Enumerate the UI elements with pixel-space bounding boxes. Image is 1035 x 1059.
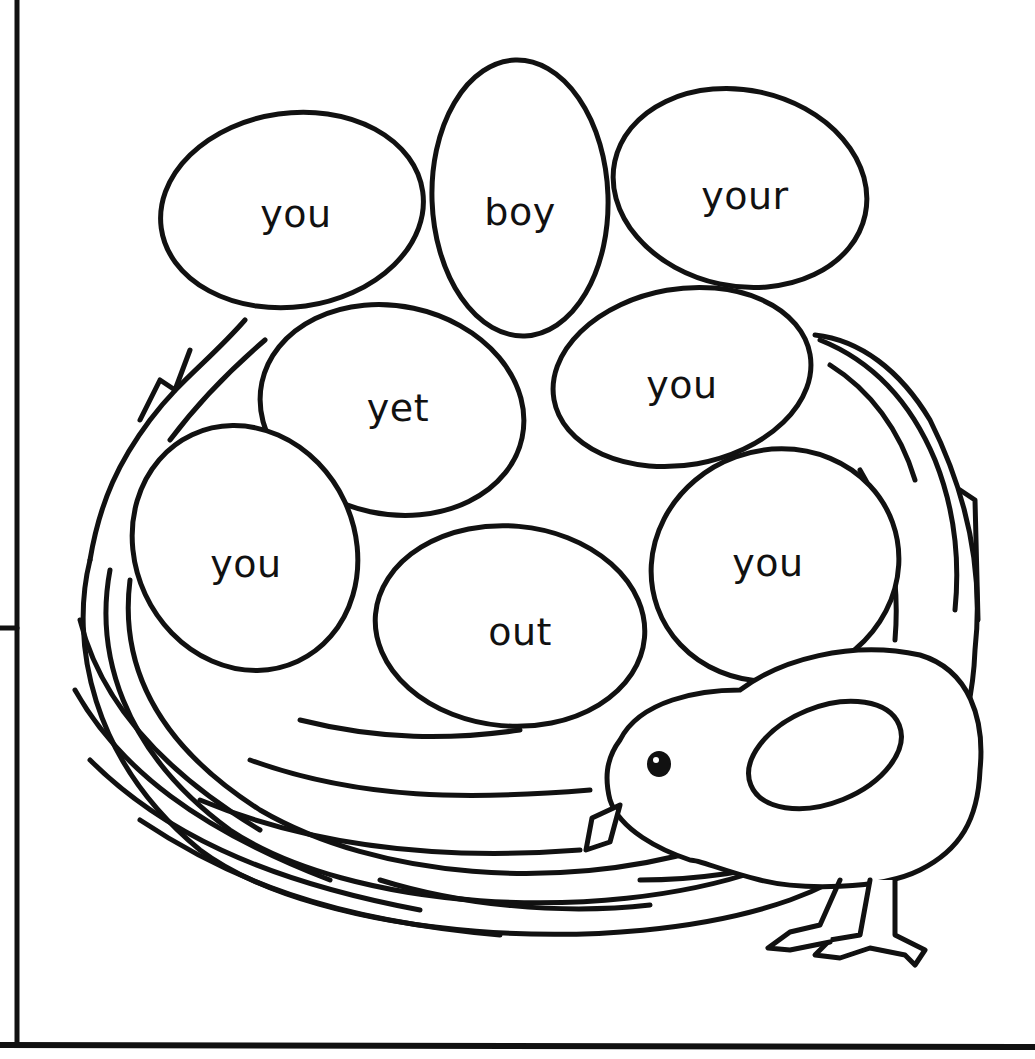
egg-word-7: out [488, 610, 552, 654]
worksheet-illustration [0, 0, 1035, 1059]
egg-word-1: you [260, 192, 331, 236]
bottom-border [0, 1045, 1035, 1047]
chick-beak [586, 805, 620, 850]
egg-word-4: yet [367, 386, 429, 430]
chick [586, 650, 981, 965]
egg-word-2: boy [484, 190, 555, 234]
egg-word-5: you [646, 363, 717, 407]
chick-eye [647, 751, 671, 777]
egg-word-6: you [210, 542, 281, 586]
egg-word-3: your [701, 174, 788, 218]
egg-word-8: you [732, 541, 803, 585]
